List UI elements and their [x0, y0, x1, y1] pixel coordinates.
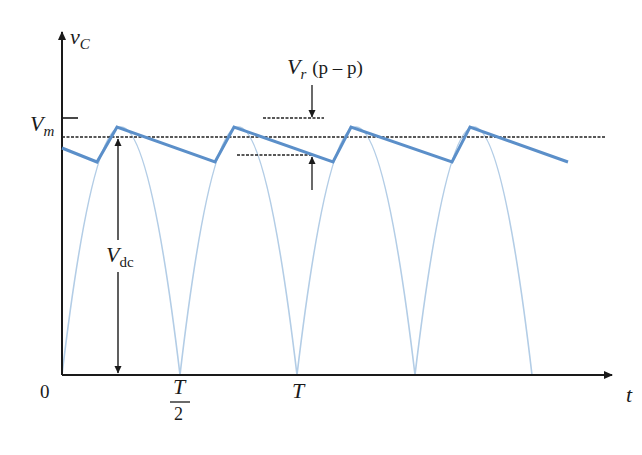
vr-label: Vr(p – p): [287, 54, 363, 82]
rectified-sine-curve: [62, 127, 532, 375]
capacitor-voltage-curve: [62, 127, 568, 162]
half-period-label: T 2: [170, 374, 190, 424]
vdc-label: Vdc: [106, 242, 134, 270]
origin-label: 0: [40, 381, 50, 402]
period-label: T: [292, 378, 306, 403]
svg-text:T: T: [173, 374, 187, 399]
vm-label: Vm: [30, 111, 54, 139]
y-axis-label: vC: [70, 24, 91, 52]
svg-text:2: 2: [174, 404, 183, 424]
ripple-waveform-diagram: vC Vm Vr(p – p) Vdc 0 T 2 T t: [0, 0, 642, 455]
x-axis-label: t: [626, 382, 633, 407]
